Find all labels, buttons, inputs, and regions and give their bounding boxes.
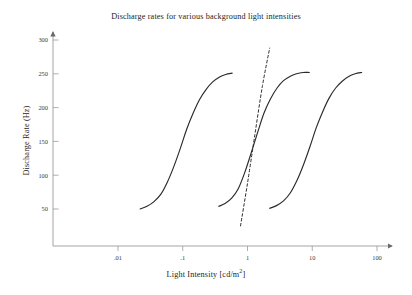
x-axis-label: Light Intensity [cd/m2] [0, 268, 412, 279]
y-tick-label: 100 [38, 172, 48, 179]
y-tick-label: 150 [38, 138, 48, 145]
y-tick-label: 250 [38, 70, 48, 77]
curve-tangent-dashed-line [241, 48, 270, 226]
x-axis-label-tail: ] [243, 270, 246, 279]
y-tick-label: 50 [42, 205, 48, 212]
y-axis-ticks: 50100150200250300 [38, 36, 58, 212]
x-tick-label: .1 [180, 254, 185, 261]
x-axis-ticks: .01.1110100 [114, 246, 382, 261]
x-tick-label: 10 [309, 254, 315, 261]
x-tick-label: .01 [114, 254, 122, 261]
chart-figure: Discharge rates for various background l… [0, 0, 412, 295]
y-axis-label: Discharge Rate (Hz) [22, 71, 31, 211]
curve-curve-1 [140, 73, 232, 209]
x-tick-label: 1 [246, 254, 249, 261]
x-tick-label: 100 [372, 254, 382, 261]
y-tick-label: 300 [38, 36, 48, 43]
x-axis-label-main: Light Intensity [cd/m [167, 270, 240, 279]
curve-curve-3 [270, 72, 362, 208]
y-tick-label: 200 [38, 104, 48, 111]
plot-area: 50100150200250300 .01.1110100 [0, 0, 412, 295]
curve-curve-2 [219, 72, 310, 206]
data-curves [140, 48, 362, 226]
